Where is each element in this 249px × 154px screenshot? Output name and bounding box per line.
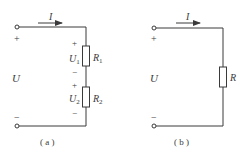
u1-label: U1 (69, 53, 80, 66)
terminal-top-a (15, 25, 19, 29)
current-label-a: I (48, 11, 53, 22)
r-label: R (229, 72, 236, 83)
resistor-r1 (83, 46, 90, 66)
u2-plus: + (72, 80, 77, 90)
resistor-r (220, 67, 227, 87)
resistor-r2 (83, 87, 90, 107)
plus-sign-b: + (151, 33, 157, 44)
minus-sign-b: − (151, 112, 157, 123)
current-label-b: I (185, 11, 190, 22)
circuit-diagram: I + − U + U1 − R1 + U2 − R2 ( a ) I + − … (0, 0, 249, 154)
u1-plus: + (72, 38, 77, 48)
u2-label: U2 (69, 93, 80, 106)
plus-sign-a: + (14, 33, 20, 44)
terminal-bottom-a (15, 124, 19, 128)
caption-b: ( b ) (174, 137, 189, 147)
r1-label: R1 (92, 52, 103, 65)
source-voltage-a: U (12, 72, 21, 84)
r2-label: R2 (92, 93, 103, 106)
terminal-top-b (152, 26, 156, 30)
circuit-a: I + − U + U1 − R1 + U2 − R2 ( a ) (12, 11, 103, 147)
u1-minus: − (72, 67, 77, 77)
u2-minus: − (72, 108, 77, 118)
minus-sign-a: − (14, 112, 20, 123)
circuit-b: I + − U R ( b ) (150, 11, 236, 147)
terminal-bottom-b (152, 124, 156, 128)
source-voltage-b: U (150, 72, 159, 84)
caption-a: ( a ) (40, 137, 55, 147)
